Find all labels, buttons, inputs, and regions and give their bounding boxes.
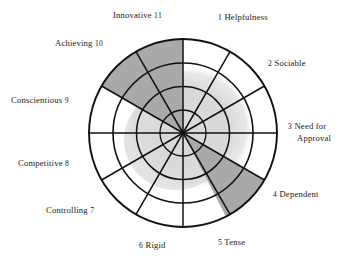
axis-number-1: 1: [218, 13, 222, 22]
axis-text-need-for: Need for: [294, 121, 326, 131]
axis-label-rigid: 6 Rigid: [139, 240, 166, 252]
axis-number-9: 9: [65, 96, 69, 105]
axis-number-4: 4: [273, 190, 277, 199]
axis-text-achieving: Achieving: [55, 38, 93, 48]
axis-label-tense: 5 Tense: [218, 237, 245, 249]
axis-label-dependent: 4 Dependent: [273, 189, 319, 201]
axis-label-sociable: 2 Sociable: [268, 58, 306, 70]
axis-text-sociable: Sociable: [274, 58, 305, 68]
axis-number-8: 8: [65, 159, 69, 168]
axis-label-innovative: Innovative 11: [113, 10, 162, 22]
axis-number-2: 2: [268, 59, 272, 68]
axis-text-controlling: Controlling: [46, 205, 88, 215]
axis-text-helpfulness: Helpfulness: [224, 12, 267, 22]
axis-text-rigid: Rigid: [145, 240, 165, 250]
axis-text-approval: Approval: [297, 133, 331, 144]
axis-label-competitive: Competitive 8: [18, 158, 69, 170]
axis-label-need-for-approval: 3 Need for Approval: [288, 121, 350, 143]
axis-number-6: 6: [139, 241, 143, 250]
axis-number-10: 10: [95, 39, 103, 48]
axis-number-7: 7: [90, 206, 94, 215]
axis-text-innovative: Innovative: [113, 10, 152, 20]
axis-text-conscientious: Conscientious: [11, 95, 62, 105]
axis-text-dependent: Dependent: [279, 189, 318, 199]
axis-label-achieving: Achieving 10: [55, 38, 103, 50]
axis-label-conscientious: Conscientious 9: [11, 95, 69, 107]
axis-number-11: 11: [154, 11, 162, 20]
axis-text-tense: Tense: [224, 237, 245, 247]
axis-number-3: 3: [288, 122, 292, 131]
axis-text-competitive: Competitive: [18, 158, 63, 168]
axis-label-controlling: Controlling 7: [46, 205, 94, 217]
axis-number-5: 5: [218, 238, 222, 247]
circle-diagram-figure: 1 Helpfulness 2 Sociable 3 Need for Appr…: [0, 0, 354, 268]
axis-label-helpfulness: 1 Helpfulness: [218, 12, 268, 24]
